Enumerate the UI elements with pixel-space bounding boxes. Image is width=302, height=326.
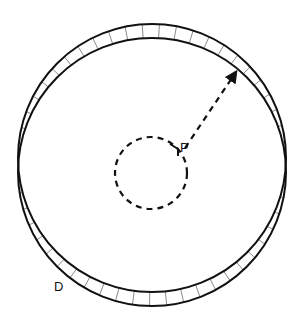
upper-circle (18, 24, 286, 292)
hatch-band (0, 5, 302, 325)
point-p-mark (170, 144, 178, 156)
circle-diagram (0, 0, 302, 326)
label-p: P (180, 141, 189, 154)
radius-arrow (185, 72, 236, 148)
diagram-canvas: P D (0, 0, 302, 326)
label-d: D (54, 280, 63, 293)
